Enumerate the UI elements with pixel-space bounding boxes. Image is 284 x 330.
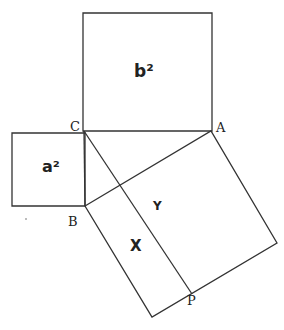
vertex-a-label: A [215, 120, 226, 135]
cp-line [84, 131, 192, 294]
vertex-c-label: C [70, 119, 80, 134]
pythagoras-diagram: b² a² C A B P X Y [0, 0, 284, 330]
region-x-label: X [130, 237, 142, 255]
b-squared-label: b² [134, 61, 154, 81]
a-squared-label: a² [42, 157, 60, 176]
diagram-svg: b² a² C A B P X Y [0, 0, 284, 330]
stray-dot [25, 218, 27, 220]
vertex-p-label: P [187, 293, 196, 308]
hypotenuse-square [85, 131, 277, 317]
region-y-label: Y [152, 199, 162, 213]
vertex-b-label: B [68, 214, 78, 229]
